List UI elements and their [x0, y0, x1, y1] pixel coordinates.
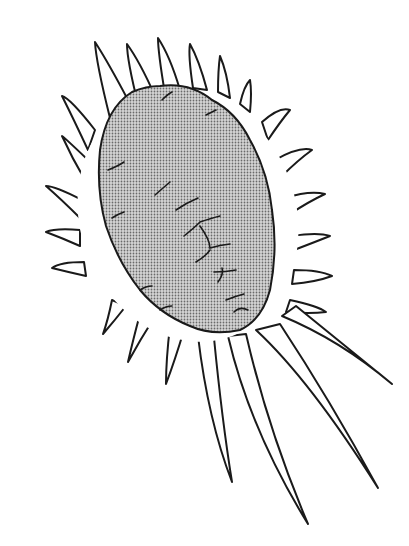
illustration-canvas	[0, 0, 409, 546]
organism-drawing	[0, 0, 409, 546]
